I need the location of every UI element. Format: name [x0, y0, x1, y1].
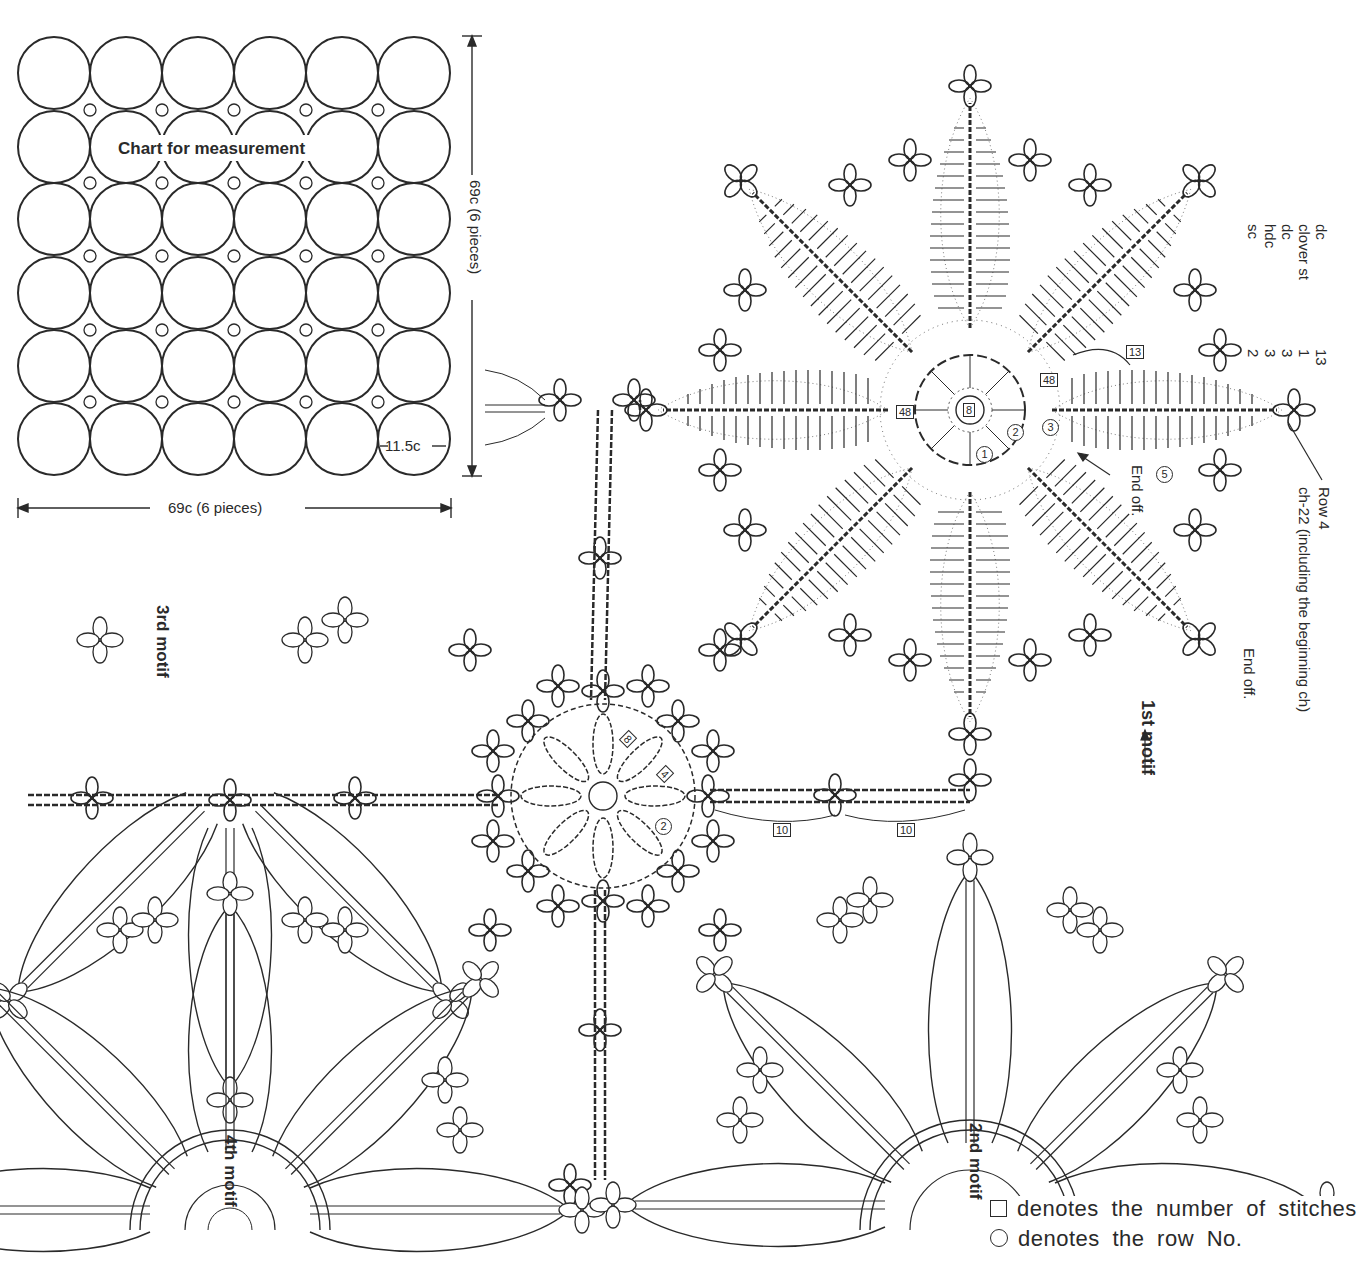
fourth-motif-diagram [0, 872, 605, 1252]
row4-label: Row 4 [1316, 487, 1333, 530]
third-motif-label: 3rd motif [152, 605, 172, 678]
end-off-label: End off. [1241, 648, 1258, 699]
legend-row: dc13 [1313, 224, 1330, 366]
stitch-count-box: 48 [896, 405, 914, 419]
row4-detail-label: ch-22 (including the beginning ch) [1296, 487, 1313, 712]
width-dimension-label: 69c (6 pieces) [168, 499, 262, 516]
note-stitch-count: denotes the number of stitches [990, 1196, 1357, 1222]
legend-row: dc3 [1279, 224, 1296, 366]
measurement-chart-title: Chart for measurement [118, 139, 305, 159]
crochet-diagram-canvas [0, 0, 1365, 1266]
square-symbol-icon [990, 1200, 1007, 1217]
stitch-count-box: 8 [963, 403, 975, 417]
measurement-chart-grid [18, 37, 450, 475]
first-motif-diagram [625, 65, 1322, 775]
chain-count-box: 10 [773, 823, 791, 837]
row-number-circle: 2 [655, 818, 672, 835]
legend-row: sc2 [1245, 224, 1262, 366]
stitch-count-box: 48 [1040, 373, 1058, 387]
legend-row: hdc3 [1262, 224, 1279, 366]
row-number-circle: 5 [1156, 466, 1173, 483]
joining-motif-diagram [472, 665, 734, 927]
stitch-count-legend: dc13 clover st1 dc3 hdc3 sc2 [1245, 224, 1330, 366]
row-number-circle: 1 [976, 446, 993, 463]
note-row-number: denotes the row No. [990, 1226, 1242, 1252]
end-off-label: End off. [1129, 465, 1146, 516]
legend-row: clover st1 [1296, 224, 1313, 366]
second-motif-label: 2nd motif [965, 1123, 985, 1200]
fourth-motif-label: 4th motif [220, 1135, 240, 1207]
stitch-count-box: 13 [1126, 345, 1144, 359]
first-motif-label: 1st motif [1137, 700, 1158, 775]
motif-diameter-label: 11.5c [385, 437, 421, 454]
row-number-circle: 3 [1042, 419, 1059, 436]
height-dimension-label: 69c (6 pieces) [467, 180, 484, 274]
chain-count-box: 10 [897, 823, 915, 837]
circle-symbol-icon [990, 1229, 1008, 1247]
row-number-circle: 2 [1007, 424, 1024, 441]
